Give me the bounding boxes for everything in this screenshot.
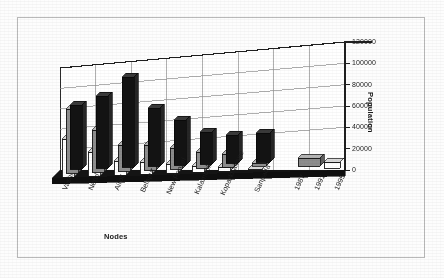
value-axis (345, 42, 350, 170)
bar-sanpada-1987 (256, 129, 274, 162)
bar-airoli-1987 (122, 73, 138, 167)
bar-group-vashi (62, 101, 86, 177)
x-axis-title: Nodes (104, 232, 127, 241)
ytick-100000: 100000 (352, 59, 376, 66)
ytick-20000: 20000 (352, 145, 372, 152)
scanned-page: 120000 100000 80000 60000 40000 20000 0 … (0, 0, 444, 278)
ytick-80000: 80000 (352, 81, 372, 88)
ytick-0: 0 (352, 166, 356, 173)
bar-vashi-1987 (70, 101, 86, 169)
chart-svg (0, 0, 444, 278)
y-axis-title: Population (366, 92, 375, 133)
bar-nerul-1987 (96, 92, 112, 168)
bar-kalamboli-1987 (200, 128, 216, 164)
bar-residual-1991 (298, 154, 324, 166)
ytick-120000: 120000 (352, 38, 376, 45)
chart-stage: 120000 100000 80000 60000 40000 20000 0 … (0, 0, 444, 278)
bar-belapur-1987 (148, 104, 164, 166)
